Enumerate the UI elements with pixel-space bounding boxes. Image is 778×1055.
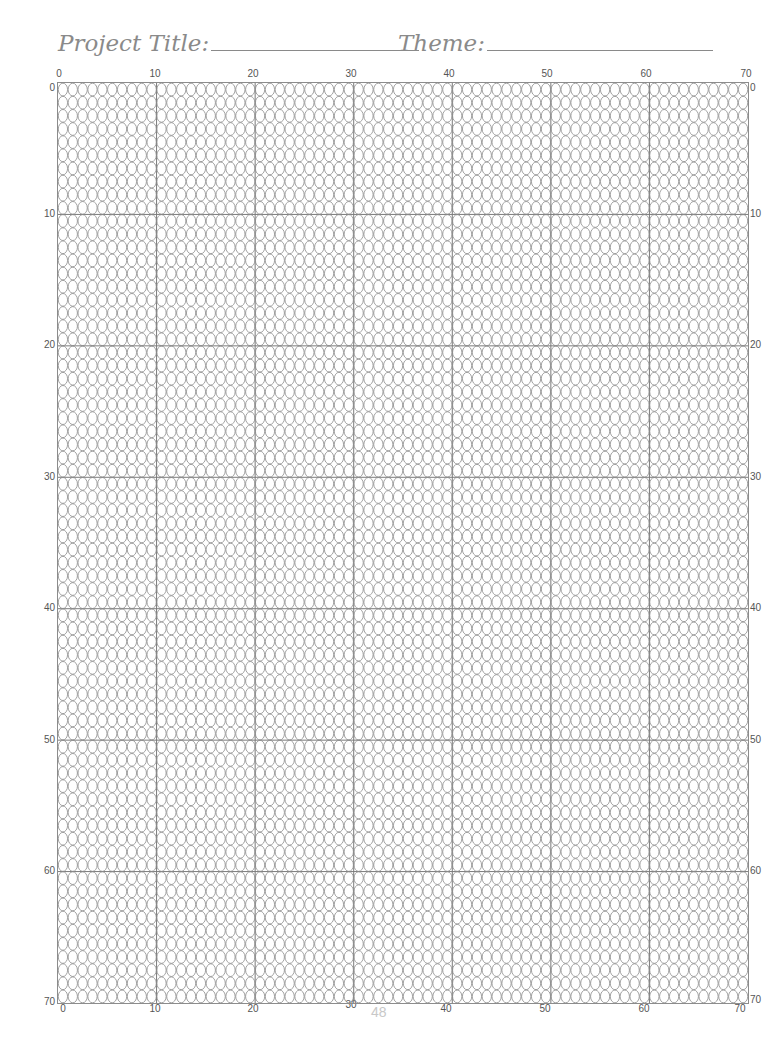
theme-field[interactable]: Theme: (398, 30, 713, 56)
bottom-axis-label: 0 (60, 1004, 66, 1014)
top-axis-label: 20 (247, 69, 258, 79)
bottom-axis-label: 20 (247, 1004, 258, 1014)
left-axis-label: 40 (44, 603, 55, 613)
theme-blank-line[interactable] (487, 32, 713, 51)
top-axis-label: 70 (740, 69, 751, 79)
right-axis-label: 20 (750, 340, 761, 350)
bottom-axis-label: 50 (539, 1004, 550, 1014)
bottom-axis-label: 70 (734, 1004, 745, 1014)
top-axis-label: 40 (443, 69, 454, 79)
left-axis-label: 20 (44, 340, 55, 350)
right-axis-label: 60 (750, 866, 761, 876)
left-axis-label: 10 (44, 209, 55, 219)
left-axis-label: 0 (49, 83, 55, 93)
top-axis-label: 30 (345, 69, 356, 79)
top-axis-label: 10 (149, 69, 160, 79)
right-axis-label: 50 (750, 735, 761, 745)
project-title-field[interactable]: Project Title: (58, 30, 419, 56)
left-axis-label: 70 (44, 997, 55, 1007)
page-number: 48 (371, 1004, 387, 1020)
right-axis-label: 10 (750, 209, 761, 219)
top-axis-label: 60 (640, 69, 651, 79)
left-axis-label: 50 (44, 735, 55, 745)
project-title-blank-line[interactable] (211, 32, 419, 51)
bottom-axis-label: 10 (149, 1004, 160, 1014)
right-axis-label: 70 (750, 995, 761, 1005)
top-axis-label: 0 (56, 69, 62, 79)
theme-label: Theme: (398, 30, 485, 56)
right-axis-label: 30 (750, 472, 761, 482)
right-axis-label: 0 (750, 83, 756, 93)
bottom-axis-label: 60 (638, 1004, 649, 1014)
top-axis-label: 50 (541, 69, 552, 79)
project-title-label: Project Title: (58, 30, 209, 56)
bead-pattern-grid[interactable] (57, 82, 749, 1004)
left-axis-label: 30 (44, 472, 55, 482)
bottom-axis-label: 40 (440, 1004, 451, 1014)
bead-grid-canvas[interactable] (58, 83, 748, 1003)
left-axis-label: 60 (44, 866, 55, 876)
right-axis-label: 40 (750, 603, 761, 613)
